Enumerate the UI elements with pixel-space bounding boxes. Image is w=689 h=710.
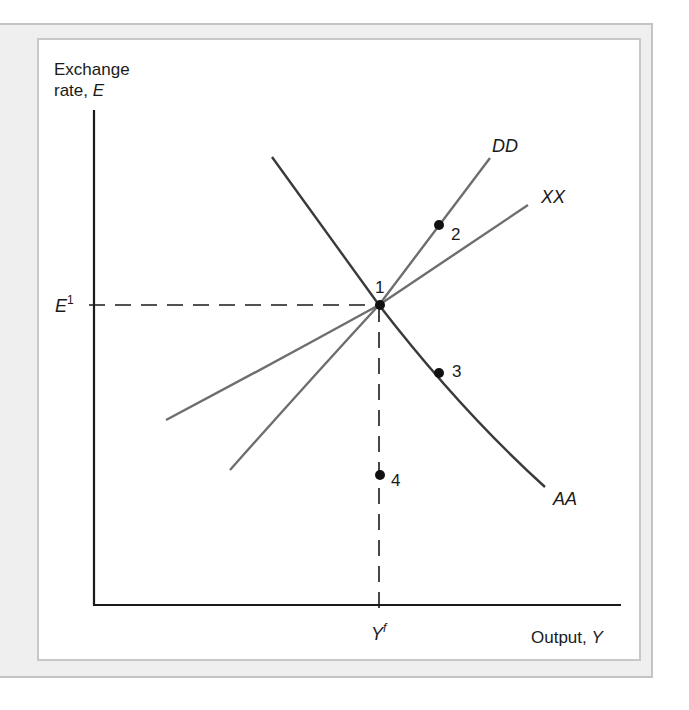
y-axis-label-line1: Exchange xyxy=(54,60,130,79)
y-axis-label-line2: rate, E xyxy=(54,81,105,100)
aa-curve xyxy=(272,157,545,487)
exchange-rate-output-diagram: Exchange rate, E Output, Y E1 Yf DD XX A… xyxy=(0,0,689,710)
x-axis-label: Output, Y xyxy=(531,628,604,647)
dd-curve xyxy=(230,158,490,470)
point-3-label: 3 xyxy=(452,362,461,381)
point-1-label: 1 xyxy=(375,278,384,297)
x-tick-label-yf: Yf xyxy=(371,621,388,644)
xx-label: XX xyxy=(540,187,566,207)
point-3-marker xyxy=(434,368,444,378)
point-4-marker xyxy=(375,470,385,480)
aa-label: AA xyxy=(552,489,577,509)
dd-label: DD xyxy=(492,136,518,156)
point-2-marker xyxy=(434,220,444,230)
point-4-label: 4 xyxy=(391,471,400,490)
point-1-marker xyxy=(375,300,385,310)
xx-curve xyxy=(166,205,528,420)
y-tick-label-e1: E1 xyxy=(55,293,74,316)
point-2-label: 2 xyxy=(451,225,460,244)
